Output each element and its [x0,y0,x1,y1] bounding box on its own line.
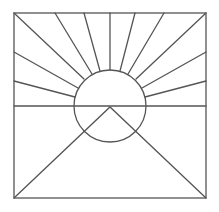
sun-ray [14,81,75,97]
mountain-triangle [14,107,206,198]
sunrise-diagram [0,0,219,212]
sun-ray [136,13,206,79]
sun-ray [120,13,135,71]
sun-ray [14,52,78,88]
sun-rays [14,13,206,97]
sun-ray [142,52,206,88]
sun-ray [145,81,206,97]
sun-ray [128,13,164,74]
sun-ray [84,13,100,71]
sun-ray [14,13,84,79]
